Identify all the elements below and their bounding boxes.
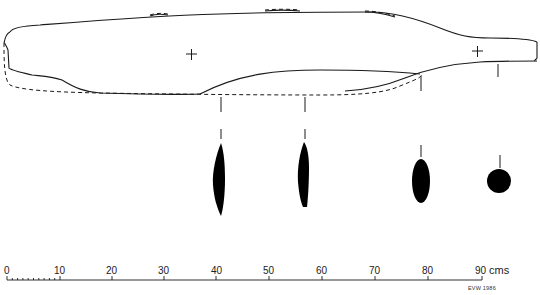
object-outline [4, 10, 537, 94]
scale-bar [7, 276, 482, 280]
cross-section-4 [487, 155, 511, 193]
scale-tick-label-0: 0 [4, 266, 10, 276]
scale-tick-label-20: 20 [106, 266, 117, 276]
scale-tick-label-70: 70 [369, 266, 380, 276]
section-indicator-lines [221, 64, 498, 112]
scale-tick-label-30: 30 [158, 266, 169, 276]
cross-section-3 [412, 145, 430, 203]
scale-tick-label-10: 10 [54, 266, 65, 276]
cross-icon [186, 49, 197, 60]
scale-tick-label-80: 80 [422, 266, 433, 276]
scale-tick-label-40: 40 [211, 266, 222, 276]
cross-section-1 [213, 129, 225, 216]
scale-tick-label-90: 90 [475, 266, 486, 276]
scale-tick-label-60: 60 [316, 266, 327, 276]
cross-section-2 [298, 129, 309, 207]
scale-unit-label: cms [489, 265, 509, 276]
drawing-credit: EVW 1986 [468, 285, 496, 291]
scale-tick-label-50: 50 [263, 266, 274, 276]
artifact-drawing [0, 0, 540, 295]
cross-icon [472, 46, 483, 57]
